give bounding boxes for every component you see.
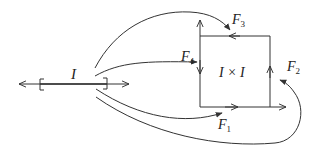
label-F4-sub: 4: [190, 56, 195, 66]
square-label: I × I: [219, 66, 245, 80]
arrow-F3: [95, 12, 230, 68]
square: [200, 20, 286, 107]
label-F1-name: F: [218, 117, 227, 132]
label-F2-sub: 2: [296, 66, 301, 76]
interval-label: I: [71, 67, 76, 82]
label-F4-name: F: [181, 49, 190, 64]
label-F3-name: F: [232, 12, 241, 27]
square-label-text: I × I: [219, 65, 245, 80]
label-F1-sub: 1: [227, 124, 232, 134]
arrow-F1: [96, 89, 222, 119]
diagram-canvas: [0, 0, 310, 152]
label-F2-name: F: [287, 59, 296, 74]
label-F3: F3: [232, 13, 245, 29]
label-F2: F2: [287, 60, 300, 76]
label-F4: F4: [181, 50, 194, 66]
interval-label-text: I: [71, 66, 76, 82]
label-F1: F1: [218, 118, 231, 134]
label-F3-sub: 3: [241, 19, 246, 29]
